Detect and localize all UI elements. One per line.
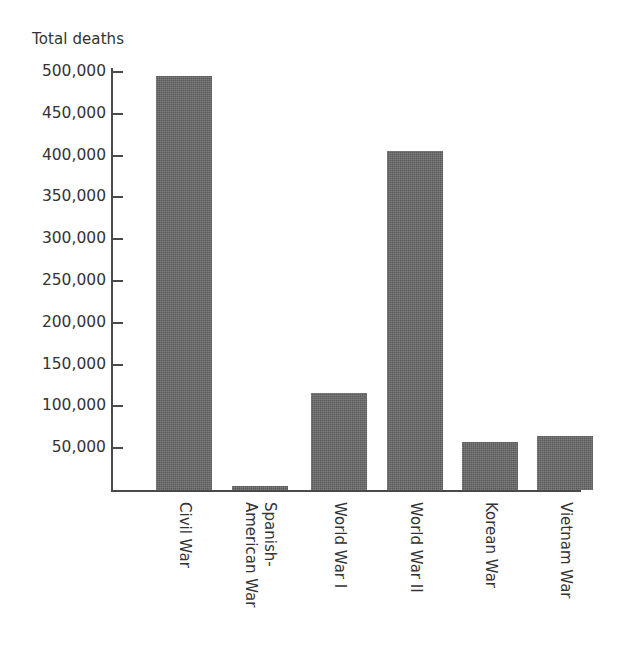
y-axis-tick-label: 250,000 [22, 271, 106, 289]
x-axis-category-label: World War II [405, 502, 425, 652]
y-axis-tick-label: 300,000 [22, 229, 106, 247]
x-axis-category-label: Vietnam War [555, 502, 575, 652]
x-axis-category-label: Spanish-American War [239, 502, 279, 652]
x-axis-category-label-line: Spanish- [260, 502, 279, 652]
y-axis-tick-mark [112, 322, 123, 324]
y-axis-tick-label-text: 200,000 [28, 313, 106, 331]
x-axis-line [111, 490, 581, 492]
x-axis-category-label-line: World War I [330, 502, 349, 652]
x-axis-category-label-line: American War [241, 502, 260, 652]
y-axis-tick-label-text: 50,000 [28, 438, 106, 456]
y-axis-tick-mark [112, 447, 123, 449]
y-axis-tick-mark [112, 113, 123, 115]
y-axis-tick-label-text: 300,000 [28, 229, 106, 247]
y-axis-tick-label: 450,000 [22, 104, 106, 122]
y-axis-tick-label: 50,000 [22, 438, 106, 456]
bar [387, 151, 443, 490]
y-axis-tick-label: 350,000 [22, 187, 106, 205]
bar [232, 486, 288, 490]
y-axis-tick-mark [112, 71, 123, 73]
y-axis-tick-label: 500,000 [22, 62, 106, 80]
x-axis-category-label-line: Vietnam War [556, 502, 575, 652]
y-axis-tick-mark [112, 364, 123, 366]
y-axis-tick-mark [112, 238, 123, 240]
y-axis-tick-label-text: 150,000 [28, 355, 106, 373]
x-axis-category-label-line: World War II [406, 502, 425, 652]
bar [311, 393, 367, 490]
y-axis-tick-label: 200,000 [22, 313, 106, 331]
bar [156, 76, 212, 490]
y-axis-tick-label-text: 100,000 [28, 396, 106, 414]
x-axis-category-label: Korean War [480, 502, 500, 652]
x-axis-category-label-line: Civil War [175, 502, 194, 652]
y-axis-tick-mark [112, 155, 123, 157]
y-axis-tick-label: 400,000 [22, 146, 106, 164]
bar-chart: Total deaths 50,000100,000150,000200,000… [0, 0, 631, 658]
bar [462, 442, 518, 490]
y-axis-tick-mark [112, 280, 123, 282]
x-axis-category-label: World War I [329, 502, 349, 652]
x-axis-category-label-line: Korean War [481, 502, 500, 652]
y-axis-tick-mark [112, 405, 123, 407]
y-axis-tick-label-text: 400,000 [28, 146, 106, 164]
y-axis-tick-label: 100,000 [22, 396, 106, 414]
y-axis-tick-label-text: 500,000 [28, 62, 106, 80]
x-axis-category-label: Civil War [174, 502, 194, 652]
y-axis-tick-label-text: 250,000 [28, 271, 106, 289]
y-axis-tick-label-text: 450,000 [28, 104, 106, 122]
y-axis-title: Total deaths [32, 30, 124, 48]
y-axis-tick-mark [112, 196, 123, 198]
bar [537, 436, 593, 490]
y-axis-tick-label: 150,000 [22, 355, 106, 373]
y-axis-tick-label-text: 350,000 [28, 187, 106, 205]
